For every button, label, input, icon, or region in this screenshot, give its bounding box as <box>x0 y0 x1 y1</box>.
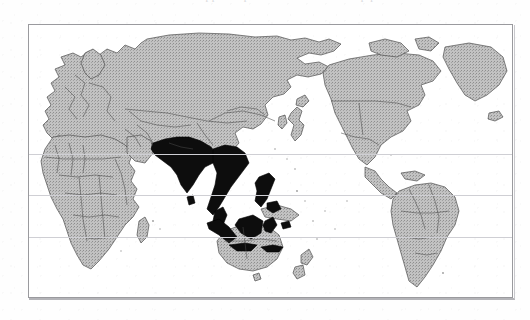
island-dot <box>312 220 314 222</box>
gridline-tropic-of-cancer <box>29 154 512 155</box>
island-dot <box>286 158 287 159</box>
island-dot <box>159 228 160 229</box>
map-plate <box>29 25 512 297</box>
island-dot <box>346 200 347 201</box>
clipped-caption-text: remnant of clipped caption text above th… <box>135 0 394 2</box>
figure-root: remnant of clipped caption text above th… <box>0 0 530 320</box>
world-map-svg <box>29 25 512 297</box>
island-dot <box>294 168 296 170</box>
map-frame <box>28 24 513 298</box>
clipped-caption-ghost: remnant of clipped caption text above th… <box>0 0 530 11</box>
island-dot <box>274 148 276 150</box>
island-dot <box>442 272 444 274</box>
island-dot <box>120 250 121 251</box>
gridline-equator <box>29 195 512 196</box>
island-dot <box>334 228 335 229</box>
gridline-tropic-of-capricorn <box>29 237 512 238</box>
island-dot <box>304 200 305 201</box>
island-dot <box>324 210 325 211</box>
island-dot <box>152 220 154 222</box>
island-dot <box>296 190 298 192</box>
island-dot <box>316 238 318 240</box>
